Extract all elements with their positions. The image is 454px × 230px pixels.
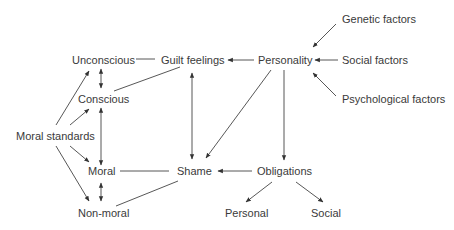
edge-standards-to-moral xyxy=(70,146,89,162)
node-obligations: Obligations xyxy=(257,165,313,177)
node-social-factors: Social factors xyxy=(342,54,409,66)
edge-obligations-to-personal xyxy=(246,182,272,202)
node-personal: Personal xyxy=(225,207,268,219)
node-unconscious: Unconscious xyxy=(72,54,135,66)
node-genetic-factors: Genetic factors xyxy=(342,13,416,25)
node-personality: Personality xyxy=(258,54,313,66)
concept-diagram: Genetic factors Unconscious Guilt feelin… xyxy=(0,0,454,230)
node-non-moral: Non-moral xyxy=(78,207,129,219)
edge-guilt-conscious xyxy=(114,67,180,91)
node-shame: Shame xyxy=(177,165,212,177)
node-moral: Moral xyxy=(88,165,116,177)
edge-shame-nonmoral xyxy=(116,181,178,206)
node-social: Social xyxy=(311,207,341,219)
edge-standards-to-conscious xyxy=(70,109,89,125)
edge-personality-to-shame xyxy=(206,70,271,158)
node-psychological-factors: Psychological factors xyxy=(342,93,446,105)
edge-psychological-to-personality xyxy=(313,73,336,96)
edges xyxy=(56,24,338,206)
edge-genetic-to-personality xyxy=(313,24,336,47)
node-moral-standards: Moral standards xyxy=(16,130,95,142)
edge-standards-to-nonmoral xyxy=(56,146,89,201)
node-conscious: Conscious xyxy=(78,93,130,105)
edge-obligations-to-social xyxy=(296,182,323,202)
node-guilt-feelings: Guilt feelings xyxy=(161,54,225,66)
